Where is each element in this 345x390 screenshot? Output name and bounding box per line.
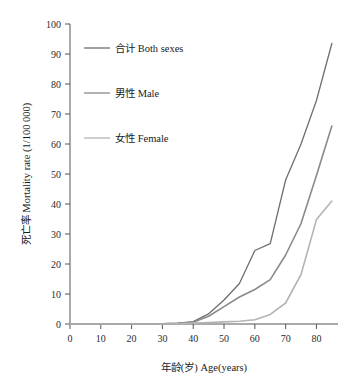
x-tick-label: 50	[219, 333, 229, 344]
x-tick-label: 10	[96, 333, 106, 344]
x-axis-tick-group: 01020304050607080	[68, 324, 322, 344]
x-tick-label: 30	[157, 333, 167, 344]
x-axis-title: 年龄(岁) Age(years)	[161, 361, 248, 374]
y-axis-tick-group: 0102030405060708090100	[46, 19, 70, 330]
mortality-rate-line-chart: 0102030405060708090100 01020304050607080…	[0, 0, 345, 390]
y-tick-label: 20	[51, 259, 61, 270]
y-tick-label: 50	[51, 169, 61, 180]
x-tick-label: 0	[68, 333, 73, 344]
chart-legend: 合计 Both sexes男性 Male女性 Female	[84, 42, 183, 144]
y-tick-label: 80	[51, 79, 61, 90]
y-tick-label: 30	[51, 229, 61, 240]
y-tick-label: 100	[46, 19, 61, 30]
series-line-0	[70, 44, 332, 325]
y-tick-label: 0	[56, 319, 61, 330]
y-tick-label: 60	[51, 139, 61, 150]
y-tick-label: 10	[51, 289, 61, 300]
x-tick-label: 20	[127, 333, 137, 344]
x-tick-label: 60	[250, 333, 260, 344]
data-series-group	[70, 44, 332, 325]
y-tick-label: 40	[51, 199, 61, 210]
y-axis-title: 死亡率 Mortality rate (1/100 000)	[20, 102, 33, 245]
y-tick-label: 90	[51, 49, 61, 60]
x-tick-label: 40	[188, 333, 198, 344]
legend-label-0: 合计 Both sexes	[115, 42, 183, 54]
x-tick-label: 80	[311, 333, 321, 344]
y-tick-label: 70	[51, 109, 61, 120]
legend-label-2: 女性 Female	[115, 132, 169, 144]
series-line-2	[70, 201, 332, 324]
legend-label-1: 男性 Male	[115, 87, 160, 99]
chart-canvas: 0102030405060708090100 01020304050607080…	[0, 0, 345, 390]
series-line-1	[70, 126, 332, 324]
x-tick-label: 70	[281, 333, 291, 344]
